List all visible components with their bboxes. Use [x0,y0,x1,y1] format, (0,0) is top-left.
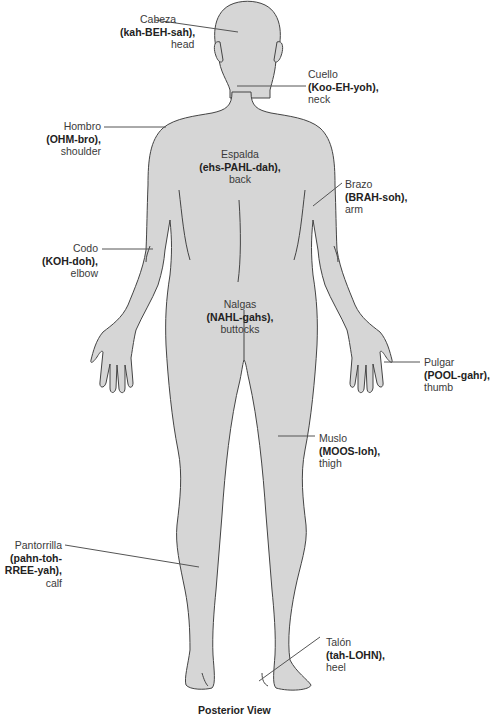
pronunciation-text: (POOL-gahr), [424,369,490,382]
pronunciation-text: (Koo-EH-yoh), [308,81,379,94]
pronunciation-text: (MOOS-loh), [319,445,380,458]
pronunciation-text: (tah-LOHN), [326,649,385,662]
label-pantorrilla: Pantorrilla (pahn-toh- RREE-yah), calf [0,539,62,589]
term-text: Pantorrilla [0,539,62,552]
label-muslo: Muslo (MOOS-loh), thigh [319,432,380,470]
english-text: thigh [319,457,380,470]
pronunciation-text-line1: (pahn-toh- [0,552,62,565]
english-text: elbow [30,267,98,280]
english-text: heel [326,661,385,674]
english-text: neck [308,93,379,106]
term-text: Talón [326,636,385,649]
label-pulgar: Pulgar (POOL-gahr), thumb [424,356,490,394]
label-brazo: Brazo (BRAH-soh), arm [345,178,407,216]
label-cabeza: Cabeza (kah-BEH-sah), head [120,13,198,51]
term-text: Cabeza [140,13,198,26]
label-nalgas: Nalgas (NAHL-gahs), buttocks [190,298,290,336]
figure-caption: Posterior View [198,704,271,716]
term-text: Cuello [308,68,379,81]
english-text: arm [345,203,407,216]
pronunciation-text-line2: RREE-yah), [0,564,62,577]
pronunciation-text: (BRAH-soh), [345,191,407,204]
term-text: Pulgar [424,356,490,369]
label-espalda: Espalda (ehs-PAHL-dah), back [185,148,295,186]
term-text: Nalgas [190,298,290,311]
label-talon: Talón (tah-LOHN), heel [326,636,385,674]
english-text: shoulder [30,145,101,158]
label-hombro: Hombro (OHM-bro), shoulder [30,120,101,158]
term-text: Espalda [185,148,295,161]
pronunciation-text: (kah-BEH-sah), [120,26,198,39]
pronunciation-text: (KOH-doh), [30,255,98,268]
term-text: Codo [30,242,98,255]
english-text: buttocks [190,323,290,336]
pronunciation-text: (OHM-bro), [30,133,101,146]
label-codo: Codo (KOH-doh), elbow [30,242,98,280]
term-text: Muslo [319,432,380,445]
term-text: Brazo [345,178,407,191]
pronunciation-text: (NAHL-gahs), [190,311,290,324]
english-text: back [185,173,295,186]
english-text: head [171,38,198,51]
label-cuello: Cuello (Koo-EH-yoh), neck [308,68,379,106]
pronunciation-text: (ehs-PAHL-dah), [185,161,295,174]
term-text: Hombro [30,120,101,133]
english-text: thumb [424,381,490,394]
head-shape [215,1,281,98]
english-text: calf [0,577,62,590]
